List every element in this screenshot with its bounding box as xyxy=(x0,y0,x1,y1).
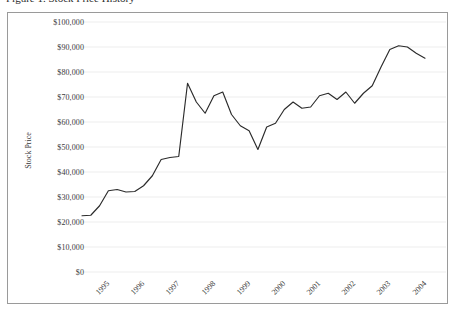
x-tick-label: 1996 xyxy=(129,279,147,297)
x-tick-label: 2004 xyxy=(410,279,428,297)
x-tick-label: 1998 xyxy=(199,279,217,297)
x-tick-label: 2003 xyxy=(375,279,393,297)
x-axis-tick-labels: 1995199619971998199920002001200220032004 xyxy=(0,0,457,311)
x-tick-label: 2002 xyxy=(340,279,358,297)
x-tick-label: 1997 xyxy=(164,279,182,297)
x-tick-label: 1999 xyxy=(234,279,252,297)
figure-container: Figure 1. Stock Price History $100,000$9… xyxy=(0,0,457,311)
x-tick-label: 2000 xyxy=(270,279,288,297)
x-tick-label: 1995 xyxy=(94,279,112,297)
x-tick-label: 2001 xyxy=(305,279,323,297)
